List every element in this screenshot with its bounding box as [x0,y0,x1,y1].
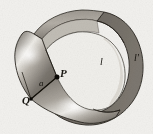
label-curve-l-prime: l' [134,53,139,63]
left-highlight [15,43,43,67]
label-point-q: Q [22,95,30,106]
label-curve-l: l [100,57,103,67]
label-point-p: P [60,68,67,79]
mobius-band-illustration [0,0,153,134]
label-arc-a: a [39,79,44,88]
point-p-marker [55,75,60,80]
figure-container: P Q a l l' [0,0,153,134]
